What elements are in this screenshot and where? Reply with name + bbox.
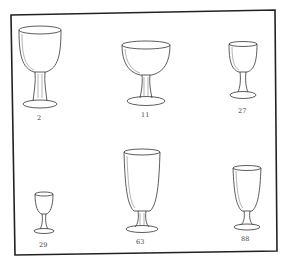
glass-2-drawing [19, 26, 61, 108]
glass-29-drawing [34, 192, 54, 234]
glass-label-63: 63 [136, 238, 144, 246]
glass-27-drawing [229, 42, 257, 99]
glass-label-88: 88 [241, 235, 249, 243]
catalog-plate: 2 11 27 29 63 [0, 0, 286, 262]
glass-label-11: 11 [141, 111, 149, 119]
glass-label-29: 29 [39, 241, 47, 249]
glass-11-drawing [122, 41, 170, 106]
glass-label-27: 27 [238, 107, 246, 115]
glass-88-drawing [233, 166, 261, 231]
glass-label-2: 2 [37, 114, 41, 122]
glass-63-drawing [124, 149, 160, 233]
